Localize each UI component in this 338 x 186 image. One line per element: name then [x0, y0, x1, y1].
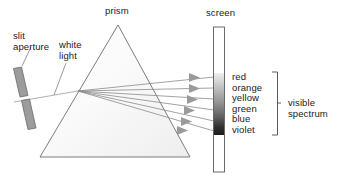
prism-label: prism: [105, 6, 129, 17]
arrowhead-right-icon-violet: [177, 126, 188, 135]
arrowhead-right-icon-orange: [189, 84, 200, 93]
arrowhead-right-icon-red: [189, 73, 200, 82]
arrowhead-right-icon-blue: [181, 117, 192, 126]
spectrum-color-labels: red orange yellow green blue violet: [232, 72, 262, 135]
visible-spectrum-label: visible spectrum: [288, 98, 328, 119]
spectrum-band: [214, 73, 224, 135]
diagram-canvas: [0, 0, 338, 186]
prism-dispersion-diagram: prism screen slit aperture white light r…: [0, 0, 338, 186]
white-light-leader-line: [54, 63, 66, 95]
screen-label: screen: [206, 8, 235, 19]
slit-aperture-label: slit aperture: [13, 31, 49, 52]
arrowhead-right-icon-yellow: [187, 95, 198, 104]
bracket-icon: [272, 72, 281, 135]
white-light-label: white light: [59, 40, 82, 61]
slit-bar-lower-icon: [22, 99, 37, 130]
slit-bar-upper-icon: [14, 67, 29, 97]
